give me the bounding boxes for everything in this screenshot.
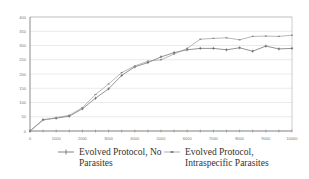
- dash-marker: [186, 48, 188, 49]
- line-chart: 050100150200250300350400 010002000300040…: [0, 0, 309, 147]
- y-tick-label: 50: [22, 114, 27, 119]
- series-lines: [29, 35, 293, 133]
- series-line: [30, 46, 292, 131]
- dash-marker: [265, 35, 267, 36]
- series-intraspecific-parasites: [29, 35, 293, 132]
- x-tick-label: 1000: [52, 136, 62, 141]
- dash-marker: [29, 130, 31, 131]
- dash-marker: [173, 53, 175, 54]
- y-axis: 050100150200250300350400: [19, 15, 30, 134]
- dash-marker: [55, 117, 57, 118]
- dash-marker: [95, 94, 97, 95]
- dash-marker: [81, 107, 83, 108]
- legend-label: Evolved Protocol, Intraspecific Parasite…: [185, 147, 269, 168]
- dash-marker: [147, 61, 149, 62]
- x-tick-label: 4000: [130, 136, 140, 141]
- x-tick-label: 3000: [104, 136, 114, 141]
- legend-label: Evolved Protocol, No Parasites: [79, 147, 162, 168]
- x-tick-label: 8000: [235, 136, 245, 141]
- legend-item-intraspecific-parasites: Evolved Protocol, Intraspecific Parasite…: [164, 147, 269, 168]
- dash-marker: [199, 39, 201, 40]
- y-tick-label: 100: [19, 100, 26, 105]
- dash-marker: [239, 39, 241, 40]
- dash-marker: [252, 36, 254, 37]
- dash-marker: [68, 115, 70, 116]
- legend: Evolved Protocol, No Parasites Evolved P…: [0, 147, 309, 179]
- y-tick-label: 250: [19, 57, 26, 62]
- grid-lines: [30, 17, 292, 131]
- dash-marker: [134, 65, 136, 66]
- x-tick-label: 9000: [261, 136, 271, 141]
- x-tick-label: 0: [29, 136, 32, 141]
- dash-marker: [42, 120, 44, 121]
- legend-label-line: Evolved Protocol,: [185, 147, 269, 158]
- x-tick-label: 6000: [183, 136, 193, 141]
- dash-marker: [226, 37, 228, 38]
- y-tick-label: 300: [19, 43, 26, 48]
- legend-label-line: Parasites: [79, 158, 162, 169]
- dash-marker: [278, 36, 280, 37]
- dash-marker: [108, 83, 110, 84]
- legend-label-line: Evolved Protocol, No: [79, 147, 162, 158]
- legend-item-no-parasites: Evolved Protocol, No Parasites: [58, 147, 162, 168]
- y-tick-label: 350: [19, 29, 26, 34]
- dash-marker: [291, 35, 293, 36]
- y-tick-label: 200: [19, 72, 26, 77]
- legend-label-line: Intraspecific Parasites: [185, 158, 269, 169]
- dash-marker: [121, 72, 123, 73]
- y-tick-label: 400: [19, 15, 26, 20]
- y-tick-label: 0: [24, 129, 27, 134]
- dash-marker: [212, 38, 214, 39]
- x-tick-label: 2000: [78, 136, 88, 141]
- x-tick-label: 10000: [286, 136, 298, 141]
- series-no-parasites: [29, 45, 293, 133]
- dash-marker: [160, 59, 162, 60]
- x-tick-label: 7000: [209, 136, 219, 141]
- x-axis: 0100020003000400050006000700080009000100…: [29, 130, 298, 142]
- y-tick-label: 150: [19, 86, 26, 91]
- x-tick-label: 5000: [157, 136, 167, 141]
- plus-marker-icon: [58, 148, 74, 156]
- dash-marker-icon: [164, 148, 180, 156]
